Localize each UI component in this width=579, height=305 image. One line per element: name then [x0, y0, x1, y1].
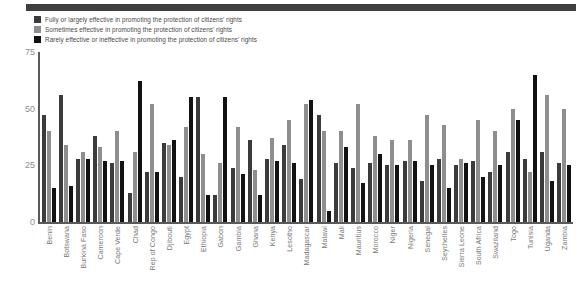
bar — [47, 131, 51, 222]
bar — [506, 152, 510, 222]
bar — [150, 104, 154, 222]
bar — [42, 115, 46, 222]
bar-group — [92, 52, 109, 222]
x-axis-tick-label: Sierra Leone — [458, 226, 465, 267]
x-axis-label-cell: Ghana — [246, 226, 263, 305]
bar — [128, 193, 132, 222]
bar — [258, 195, 262, 222]
bar-group — [556, 52, 573, 222]
x-axis-label-cell: Mauritius — [349, 226, 366, 305]
bar — [459, 159, 463, 222]
bar — [201, 154, 205, 222]
bar-groups — [40, 52, 573, 222]
bar — [540, 152, 544, 222]
x-axis-tick-label: Ghana — [251, 226, 258, 248]
bar — [356, 104, 360, 222]
y-axis-tick-label: 0 — [30, 217, 35, 227]
x-axis-label-cell: Madagascar — [298, 226, 315, 305]
bar-group — [298, 52, 315, 222]
x-axis-label-cell: Ethiopia — [195, 226, 212, 305]
bar-group — [246, 52, 263, 222]
bar-group — [40, 52, 57, 222]
bar — [557, 163, 561, 222]
bar-group — [487, 52, 504, 222]
bar — [516, 120, 520, 222]
bar — [162, 143, 166, 222]
x-axis-label-cell: Morocco — [367, 226, 384, 305]
bar — [155, 172, 159, 222]
x-axis-tick-label: Tunisia — [526, 226, 533, 249]
bar — [385, 165, 389, 222]
bar — [523, 159, 527, 222]
bar — [98, 147, 102, 222]
x-axis-tick-label: Senegal — [423, 226, 430, 252]
bar — [76, 159, 80, 222]
x-axis-tick-label: Uganda — [544, 226, 551, 251]
bar-group — [521, 52, 538, 222]
bar — [454, 165, 458, 222]
bar — [322, 131, 326, 222]
bar — [481, 177, 485, 222]
x-axis-label-cell: Benin — [40, 226, 57, 305]
x-axis-tick-label: Mauritius — [354, 226, 361, 255]
plot-area: 0255075 — [40, 52, 573, 222]
bar — [64, 145, 68, 222]
bar — [145, 172, 149, 222]
legend-item: Rarely effective or ineffective in promo… — [34, 35, 454, 44]
bar — [287, 120, 291, 222]
x-axis-tick-label: South Africa — [475, 226, 482, 265]
bar — [236, 127, 240, 222]
bar — [270, 138, 274, 222]
bar — [498, 165, 502, 222]
bar — [395, 165, 399, 222]
x-axis-label-cell: Swaziland — [487, 226, 504, 305]
bar — [442, 125, 446, 222]
bar — [447, 188, 451, 222]
x-axis-label-cell: Tunisia — [521, 226, 538, 305]
bar — [420, 181, 424, 222]
bar — [115, 131, 119, 222]
bar — [344, 147, 348, 222]
bar — [545, 95, 549, 222]
bar — [93, 136, 97, 222]
bar — [425, 115, 429, 222]
bar — [493, 131, 497, 222]
bar-group — [504, 52, 521, 222]
legend-item: Sometimes effective in promoting the pro… — [34, 25, 454, 34]
bar-group — [281, 52, 298, 222]
bar-group — [384, 52, 401, 222]
x-axis-tick-label: Madagascar — [303, 226, 310, 266]
x-axis-tick-label: Gambia — [234, 226, 241, 251]
x-axis-tick-label: Rep of Congo — [148, 226, 155, 270]
chart-legend: Fully or largely effective in promoting … — [34, 15, 454, 45]
bar — [550, 181, 554, 222]
bar — [368, 163, 372, 222]
x-axis-tick-label: Egypt — [183, 226, 190, 244]
legend-swatch-icon — [34, 16, 41, 23]
legend-item-label: Sometimes effective in promoting the pro… — [45, 26, 232, 33]
bar — [172, 140, 176, 222]
x-axis-tick-label: Burkina Faso — [79, 226, 86, 268]
bar-group — [349, 52, 366, 222]
bar-group — [470, 52, 487, 222]
bar — [189, 97, 193, 222]
bar-group — [229, 52, 246, 222]
x-axis-tick-label: Seychelles — [440, 226, 447, 261]
x-axis-label-cell: Kenya — [263, 226, 280, 305]
top-divider-rule — [26, 4, 576, 11]
x-axis-tick-label: Benin — [45, 226, 52, 244]
x-axis-label-cell: Chad — [126, 226, 143, 305]
bar — [138, 81, 142, 222]
x-axis-tick-label: Niger — [389, 226, 396, 243]
bar — [437, 159, 441, 222]
bar-group — [367, 52, 384, 222]
bar — [120, 161, 124, 222]
y-axis-tick-label: 50 — [25, 104, 35, 114]
bar — [339, 131, 343, 222]
bar — [304, 104, 308, 222]
bar — [282, 145, 286, 222]
x-axis-tick-label: Zambia — [561, 226, 568, 250]
x-axis-label-cell: Gambia — [229, 226, 246, 305]
bar-group — [315, 52, 332, 222]
bar — [206, 195, 210, 222]
